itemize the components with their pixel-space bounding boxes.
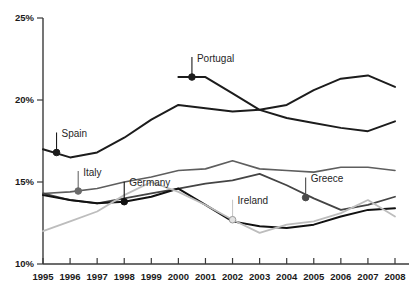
x-tick-label: 2001 [195, 271, 217, 282]
callout-label-italy: Italy [83, 167, 101, 178]
series-callouts: SpainPortugalItalyGreeceGermanyIreland [53, 53, 344, 223]
callout-marker-ireland[interactable] [229, 216, 236, 223]
x-tick-label: 2006 [330, 271, 351, 282]
x-tick-label: 2008 [384, 271, 405, 282]
x-axis: 1995199619971998199920002001200220032004… [32, 258, 409, 282]
series-lines [43, 75, 395, 232]
x-tick-label: 1996 [60, 271, 81, 282]
callout-marker-greece[interactable] [302, 194, 309, 201]
y-tick-label: 25% [15, 12, 35, 23]
x-tick-label: 2007 [357, 271, 378, 282]
callout-label-greece: Greece [311, 173, 344, 184]
line-chart: 25%20%15%10% 199519961997199819992000200… [0, 0, 412, 294]
y-tick-label: 15% [15, 176, 35, 187]
series-line-germany [43, 189, 395, 228]
y-tick-label: 10% [15, 258, 35, 269]
x-tick-label: 2003 [249, 271, 270, 282]
x-tick-label: 1999 [141, 271, 162, 282]
x-tick-label: 2002 [222, 271, 243, 282]
callout-marker-spain[interactable] [53, 149, 60, 156]
callout-label-germany: Germany [129, 177, 170, 188]
x-tick-label: 1998 [114, 271, 135, 282]
chart-canvas: 25%20%15%10% 199519961997199819992000200… [0, 0, 412, 294]
callout-marker-germany[interactable] [121, 198, 128, 205]
y-axis: 25%20%15%10% [15, 12, 43, 269]
x-tick-label: 2004 [276, 271, 298, 282]
series-line-spain [43, 75, 395, 157]
y-tick-label: 20% [15, 94, 35, 105]
x-tick-label: 2005 [303, 271, 325, 282]
callout-marker-italy[interactable] [75, 188, 82, 195]
callout-marker-portugal[interactable] [189, 74, 196, 81]
callout-label-ireland: Ireland [238, 195, 269, 206]
series-line-ireland [43, 182, 395, 233]
x-tick-label: 2000 [168, 271, 189, 282]
x-tick-label: 1995 [32, 271, 54, 282]
callout-label-portugal: Portugal [197, 53, 234, 64]
callout-label-spain: Spain [62, 128, 88, 139]
x-tick-label: 1997 [87, 271, 108, 282]
